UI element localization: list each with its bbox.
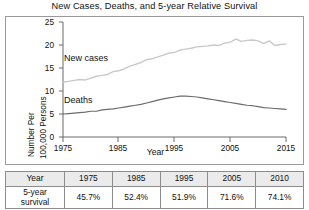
x-axis-title: Year bbox=[6, 147, 305, 157]
table-header-row: Year 1975 1985 1995 2005 2010 bbox=[6, 172, 304, 187]
y-tick-label-25: 25 bbox=[36, 17, 54, 27]
table-cell-2005: 71.6% bbox=[208, 187, 256, 209]
table-cell-1995: 51.9% bbox=[160, 187, 208, 209]
table-cell-1975: 45.7% bbox=[65, 187, 113, 209]
table-cell-1985: 52.4% bbox=[112, 187, 160, 209]
chart-page: New Cases, Deaths, and 5-year Relative S… bbox=[0, 0, 309, 210]
table-header-2010: 2010 bbox=[256, 172, 304, 187]
table-header-1985: 1985 bbox=[112, 172, 160, 187]
table-header-1995: 1995 bbox=[160, 172, 208, 187]
series-label-new-cases: New cases bbox=[64, 53, 108, 63]
chart-panel: 25 20 15 10 5 0 Number Per 100,000 Perso… bbox=[5, 16, 304, 165]
table-row-label-line2: survival bbox=[21, 197, 49, 207]
table-row-label-line1: 5-year bbox=[23, 187, 47, 197]
series-label-deaths: Deaths bbox=[64, 95, 93, 105]
table-cell-2010: 74.1% bbox=[256, 187, 304, 209]
survival-table: Year 1975 1985 1995 2005 2010 5-year sur… bbox=[5, 171, 304, 209]
table-row: 5-year survival 45.7% 52.4% 51.9% 71.6% … bbox=[6, 187, 304, 209]
y-tick-marks bbox=[59, 22, 63, 137]
table-header-1975: 1975 bbox=[65, 172, 113, 187]
y-tick-label-20: 20 bbox=[36, 40, 54, 50]
table-header-2005: 2005 bbox=[208, 172, 256, 187]
series-line-deaths bbox=[63, 96, 286, 114]
x-tick-marks bbox=[63, 137, 286, 142]
table-row-label: 5-year survival bbox=[6, 187, 65, 209]
page-title: New Cases, Deaths, and 5-year Relative S… bbox=[0, 1, 309, 11]
table-header-year: Year bbox=[6, 172, 65, 187]
